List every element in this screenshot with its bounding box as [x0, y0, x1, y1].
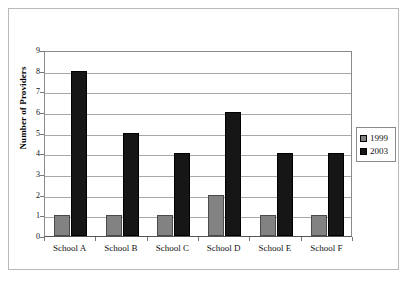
- bar-school-a-1999: [54, 215, 70, 236]
- bar-school-e-1999: [260, 215, 276, 236]
- plot-area: [44, 51, 352, 237]
- bar-school-c-1999: [157, 215, 173, 236]
- x-axis-tick-marks: [44, 237, 352, 242]
- x-axis-tick-label: School A: [44, 243, 95, 254]
- x-axis-tick-mark: [147, 237, 148, 241]
- chart-legend: 19992003: [356, 127, 396, 162]
- x-axis-tick-mark: [301, 237, 302, 241]
- legend-label: 2003: [370, 146, 388, 156]
- bar-school-d-2003: [225, 112, 241, 236]
- bar-school-c-2003: [174, 153, 190, 236]
- x-axis-tick-label: School D: [198, 243, 249, 254]
- gridline: [45, 114, 351, 115]
- legend-item-1999[interactable]: 1999: [360, 132, 392, 144]
- chart-figure: Number of Providers 0123456789 School AS…: [0, 0, 409, 284]
- y-axis-tick-marks: [16, 51, 44, 237]
- x-axis-tick-label: School C: [147, 243, 198, 254]
- x-axis-tick-mark: [198, 237, 199, 241]
- gridline: [45, 176, 351, 177]
- gridline: [45, 217, 351, 218]
- x-axis-tick-mark: [95, 237, 96, 241]
- x-axis-tick-label: School E: [249, 243, 300, 254]
- gridline: [45, 197, 351, 198]
- gridline: [45, 73, 351, 74]
- bar-school-d-1999: [208, 195, 224, 236]
- legend-swatch-icon-1999: [360, 135, 367, 142]
- legend-label: 1999: [370, 133, 388, 143]
- bar-school-f-2003: [328, 153, 344, 236]
- x-axis-tick-label: School F: [301, 243, 352, 254]
- x-axis-tick-mark: [44, 237, 45, 241]
- legend-item-2003[interactable]: 2003: [360, 145, 392, 157]
- bar-school-b-2003: [123, 133, 139, 236]
- x-axis-tick-labels: School ASchool BSchool CSchool DSchool E…: [44, 243, 352, 259]
- bar-school-f-1999: [311, 215, 327, 236]
- bar-school-b-1999: [106, 215, 122, 236]
- legend-swatch-icon-2003: [360, 148, 367, 155]
- bar-school-a-2003: [71, 71, 87, 236]
- gridline: [45, 93, 351, 94]
- bar-school-e-2003: [277, 153, 293, 236]
- gridline: [45, 155, 351, 156]
- x-axis-tick-mark: [352, 237, 353, 241]
- x-axis-tick-mark: [249, 237, 250, 241]
- gridline: [45, 135, 351, 136]
- x-axis-tick-label: School B: [95, 243, 146, 254]
